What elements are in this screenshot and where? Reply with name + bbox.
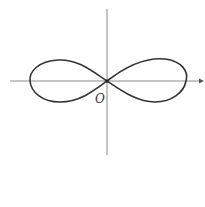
x-axis-arrowhead	[199, 79, 204, 84]
lemniscate-diagram: O	[0, 0, 205, 207]
origin-label: O	[95, 92, 105, 106]
origin-point	[105, 79, 108, 82]
